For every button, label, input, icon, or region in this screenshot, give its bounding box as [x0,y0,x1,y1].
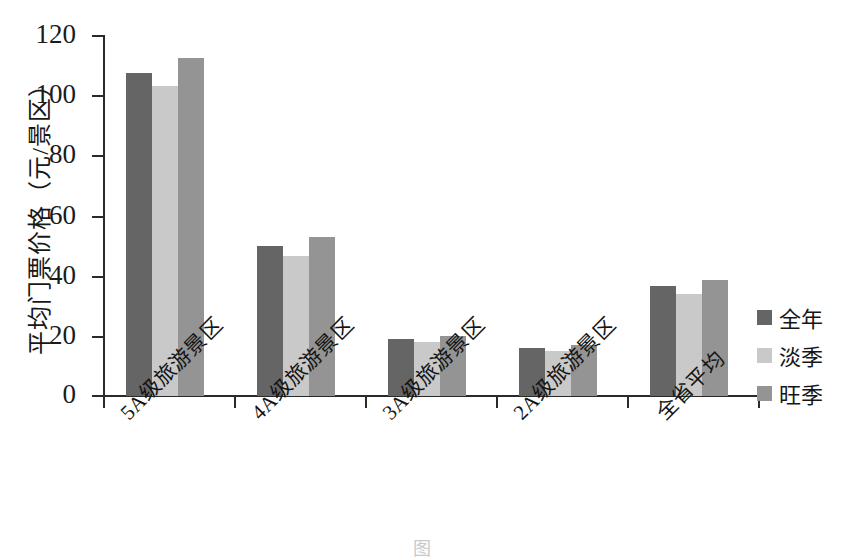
legend-swatch-icon-wangji [757,386,772,401]
y-tick-label-100: 100 [36,79,77,110]
y-tick-20: 20 [92,336,103,338]
y-tick-60: 60 [92,216,103,218]
figure-caption: 图 [0,534,844,560]
y-tick-label-20: 20 [49,320,76,351]
legend-item-quannian: 全年 [757,298,844,336]
y-tick-40: 40 [92,276,103,278]
legend-swatch-icon-danji [757,348,772,363]
bar-group-province-avg [628,35,759,396]
y-tick-label-80: 80 [49,139,76,170]
y-tick-80: 80 [92,155,103,157]
x-tick-4 [627,396,629,408]
legend-item-wangji: 旺季 [757,374,844,412]
legend-label-wangji: 旺季 [779,377,823,409]
legend-label-danji: 淡季 [779,339,823,371]
legend-item-danji: 淡季 [757,336,844,374]
x-tick-3 [496,396,498,408]
legend-swatch-icon-quannian [757,310,772,325]
legend: 全年 淡季 旺季 [757,298,844,412]
legend-label-quannian: 全年 [779,301,823,333]
bar-5a-quannian [126,73,152,396]
y-tick-100: 100 [92,95,103,97]
y-tick-label-0: 0 [63,379,77,410]
x-tick-1 [234,396,236,408]
y-tick-label-60: 60 [49,199,76,230]
y-tick-120: 120 [92,35,103,37]
x-tick-2 [365,396,367,408]
y-tick-label-120: 120 [36,19,77,50]
x-tick-0 [103,396,105,408]
y-tick-label-40: 40 [49,260,76,291]
y-tick-0: 0 [92,395,103,397]
